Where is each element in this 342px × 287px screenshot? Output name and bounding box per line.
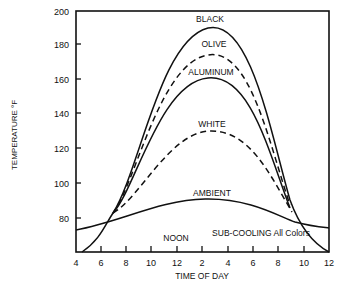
series-labels: BLACK OLIVE ALUMINUM WHITE AMBIENT NOON … bbox=[163, 14, 310, 243]
y-tick-160: 160 bbox=[54, 75, 69, 85]
y-tick-200: 200 bbox=[54, 7, 69, 17]
x-tick: 6 bbox=[250, 258, 255, 268]
x-tick: 10 bbox=[299, 258, 309, 268]
chart-container: 200 180 160 140 120 100 80 TEMPERATURE °… bbox=[0, 0, 342, 287]
x-tick: 10 bbox=[146, 258, 156, 268]
y-tick-180: 180 bbox=[54, 40, 69, 50]
label-subcooling: SUB-COOLING All Colors bbox=[212, 228, 310, 238]
x-axis bbox=[101, 246, 304, 252]
x-axis-label: TIME OF DAY bbox=[175, 271, 229, 281]
x-tick-labels: 4 6 8 10 12 2 4 6 8 10 12 bbox=[73, 258, 334, 268]
x-tick: 12 bbox=[172, 258, 182, 268]
x-tick: 8 bbox=[275, 258, 280, 268]
label-ambient: AMBIENT bbox=[193, 188, 231, 198]
y-tick-labels: 200 180 160 140 120 100 80 bbox=[54, 7, 69, 224]
x-tick: 12 bbox=[324, 258, 334, 268]
label-olive: OLIVE bbox=[201, 39, 226, 49]
label-white: WHITE bbox=[198, 119, 226, 129]
label-black: BLACK bbox=[196, 14, 224, 24]
x-tick: 4 bbox=[73, 258, 78, 268]
y-tick-140: 140 bbox=[54, 109, 69, 119]
x-tick: 6 bbox=[98, 258, 103, 268]
series-lines bbox=[76, 27, 329, 252]
x-tick: 8 bbox=[123, 258, 128, 268]
y-axis-label: TEMPERATURE °F bbox=[10, 100, 19, 170]
x-tick: 4 bbox=[225, 258, 230, 268]
y-tick-80: 80 bbox=[59, 214, 69, 224]
y-tick-120: 120 bbox=[54, 144, 69, 154]
y-tick-100: 100 bbox=[54, 179, 69, 189]
series-white bbox=[113, 131, 292, 213]
label-noon: NOON bbox=[163, 233, 189, 243]
temperature-chart: 200 180 160 140 120 100 80 TEMPERATURE °… bbox=[0, 0, 342, 287]
label-aluminum: ALUMINUM bbox=[188, 67, 233, 77]
x-tick: 2 bbox=[199, 258, 204, 268]
